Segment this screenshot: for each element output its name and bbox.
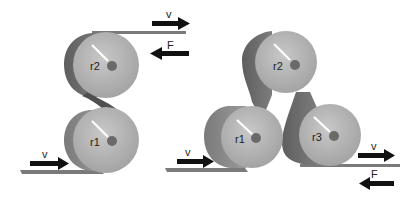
axle-r2 <box>290 60 300 70</box>
arrow-v-top-right: v <box>152 8 190 30</box>
right-configuration: r2 r1 r3 v v F <box>165 31 400 190</box>
axle-r3 <box>329 131 339 141</box>
arrow-v-bottom-right: v <box>358 140 395 162</box>
left-configuration: r2 r1 v F v <box>20 8 190 174</box>
belt-strip-bottom-left <box>165 168 248 172</box>
svg-text:F: F <box>167 39 174 51</box>
roller-diagram: r2 r1 v F v <box>0 0 417 198</box>
arrow-F-top-left: F <box>150 39 189 60</box>
roller-label-r2: r2 <box>90 60 100 72</box>
svg-text:F: F <box>371 168 378 180</box>
roller-r1-face <box>73 107 139 173</box>
svg-text:v: v <box>371 140 377 152</box>
roller-label-r1: r1 <box>90 136 100 148</box>
roller-label-r2: r2 <box>273 60 283 72</box>
svg-text:v: v <box>185 146 191 158</box>
arrow-F-bottom-right: F <box>359 168 394 190</box>
svg-text:v: v <box>166 8 172 20</box>
axle-r2 <box>107 61 117 71</box>
svg-text:v: v <box>42 148 48 160</box>
roller-label-r3: r3 <box>312 131 322 143</box>
arrow-v-bottom-left: v <box>30 148 69 170</box>
roller-r2-face <box>73 32 139 98</box>
axle-r1 <box>107 136 117 146</box>
roller-label-r1: r1 <box>235 133 245 145</box>
roller-r2-face <box>255 31 317 93</box>
axle-r1 <box>251 133 261 143</box>
